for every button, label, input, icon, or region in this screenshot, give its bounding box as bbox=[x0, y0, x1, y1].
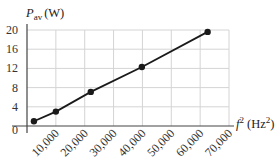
x-tick-label: 50,000 bbox=[144, 126, 177, 159]
y-tick-labels: 48121620 bbox=[6, 23, 18, 114]
x-tick-labels: 10,00020,00030,00040,00050,00060,00070,0… bbox=[29, 126, 235, 159]
y-tick-zero: 0 bbox=[12, 123, 18, 137]
y-tick-label: 4 bbox=[12, 100, 18, 114]
x-tick-label: 10,000 bbox=[29, 126, 62, 159]
data-point-marker bbox=[88, 89, 94, 95]
data-point-marker bbox=[139, 64, 145, 70]
y-tick-label: 12 bbox=[6, 61, 18, 75]
y-axis-label: Pav(W) bbox=[25, 6, 64, 22]
x-tick-label: 30,000 bbox=[86, 126, 119, 159]
data-series bbox=[31, 29, 211, 125]
data-point-marker bbox=[204, 29, 210, 35]
x-tick-label: 20,000 bbox=[58, 126, 91, 159]
x-tick-label: 40,000 bbox=[115, 126, 148, 159]
data-point-marker bbox=[53, 108, 59, 114]
x-tick-label: 60,000 bbox=[173, 126, 206, 159]
series-line bbox=[34, 32, 208, 121]
power-vs-frequency-squared-chart: 48121620 10,00020,00030,00040,00050,0006… bbox=[0, 0, 280, 164]
data-point-marker bbox=[31, 118, 37, 124]
y-tick-label: 16 bbox=[6, 42, 18, 56]
y-tick-label: 20 bbox=[6, 23, 18, 37]
x-tick-label: 70,000 bbox=[202, 126, 235, 159]
y-tick-label: 8 bbox=[12, 81, 18, 95]
x-axis-label: f2(Hz2) bbox=[236, 115, 274, 131]
